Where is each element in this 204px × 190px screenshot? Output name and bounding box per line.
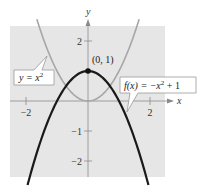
svg-text:f(x) = −x2 + 1: f(x) = −x2 + 1 xyxy=(124,79,180,92)
vertex-point xyxy=(85,68,91,74)
vertex-annotation: (0, 1) xyxy=(92,54,114,66)
y-axis-arrow-icon xyxy=(86,19,91,26)
callout-text: y = x xyxy=(18,72,40,83)
y-axis-label: y xyxy=(85,6,91,17)
x-tick-label: 2 xyxy=(148,107,153,118)
y-tick-label: 2 xyxy=(77,36,82,47)
x-axis-label: x xyxy=(176,95,182,106)
x-axis-arrow-icon xyxy=(167,99,174,104)
y-tick-label: −2 xyxy=(71,156,82,167)
x-tick-label: −2 xyxy=(21,107,32,118)
callout-text: f(x) = −x xyxy=(124,80,161,92)
chart: −2 2 2 −1 −2 x y (0, 1) y = x2 f(x) = −x… xyxy=(0,0,204,190)
y-tick-label: −1 xyxy=(71,126,82,137)
plot-svg: −2 2 2 −1 −2 x y (0, 1) y = x2 f(x) = −x… xyxy=(0,0,204,190)
